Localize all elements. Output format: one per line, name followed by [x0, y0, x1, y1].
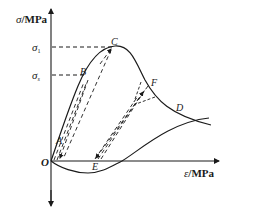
dashed-loading-2: [57, 84, 86, 160]
main-stress-curve: [51, 46, 211, 161]
dashed-F-branch-2: [134, 82, 141, 102]
stress-strain-diagram: σ/MPa ε/MPa σ1 σs O A B C D E F: [0, 0, 255, 217]
y-axis-label: σ/MPa: [16, 13, 48, 25]
dashed-reload-1: [95, 96, 138, 159]
point-label-E: E: [91, 161, 98, 172]
sigma1-label: σ1: [32, 41, 40, 54]
lower-strain-curve: [51, 118, 209, 173]
sigmas-label: σs: [32, 69, 40, 82]
dashed-unloading-B: [60, 80, 88, 158]
dashed-reload-2: [98, 92, 143, 159]
point-label-F: F: [150, 77, 158, 88]
diagram-canvas: σ/MPa ε/MPa σ1 σs O A B C D E F: [0, 0, 255, 217]
x-axis-label: ε/MPa: [184, 167, 215, 179]
point-label-B: B: [80, 66, 86, 77]
point-label-A: A: [55, 135, 63, 146]
point-label-C: C: [111, 36, 118, 47]
point-label-D: D: [175, 102, 184, 113]
origin-label: O: [41, 156, 49, 168]
